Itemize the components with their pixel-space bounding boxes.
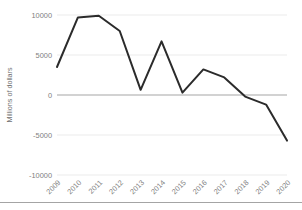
line-chart-figure: 1000050000-5000-10000 200920102011201220… (0, 0, 302, 210)
y-axis-tick-label: 10000 (31, 11, 52, 20)
y-axis-tick-label: -10000 (29, 171, 52, 180)
y-axis-title-group: Millions of dollars (5, 67, 14, 123)
y-axis-tick-label: -5000 (33, 131, 52, 140)
chart-canvas: 1000050000-5000-10000 200920102011201220… (0, 0, 302, 210)
y-axis-tick-label: 0 (48, 91, 52, 100)
y-axis-tick-label: 5000 (36, 51, 52, 60)
y-axis-title: Millions of dollars (5, 67, 14, 123)
